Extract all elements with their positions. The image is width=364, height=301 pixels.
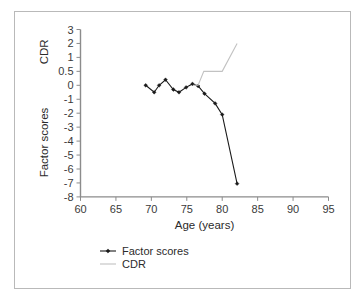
y-tick-label: -1 — [64, 93, 74, 105]
x-tick-label: 75 — [181, 203, 193, 215]
y-tick-label: -7 — [64, 177, 74, 189]
data-point-marker — [235, 182, 239, 186]
figure-root: 3210.50-1-2-3-4-5-6-7-86065707580859095A… — [0, 0, 364, 301]
y-tick-label: -6 — [64, 163, 74, 175]
y-tick-label: -4 — [64, 135, 74, 147]
line-chart: 3210.50-1-2-3-4-5-6-7-86065707580859095A… — [0, 0, 364, 301]
x-tick-label: 80 — [216, 203, 228, 215]
x-tick-label: 95 — [322, 203, 334, 215]
y-tick-label: 0.5 — [58, 65, 73, 77]
series-factor-scores — [144, 78, 239, 186]
y-axis-ticks: 3210.50-1-2-3-4-5-6-7-8 — [58, 24, 80, 203]
x-tick-label: 70 — [145, 203, 157, 215]
legend-swatch-marker — [106, 249, 110, 253]
y-tick-label: -8 — [64, 191, 74, 203]
x-axis-ticks: 6065707580859095 — [74, 197, 334, 215]
y-tick-label: 0 — [67, 79, 73, 91]
y-tick-label: -2 — [64, 107, 74, 119]
series-cdr — [193, 43, 237, 85]
y-tick-label: 1 — [67, 51, 73, 63]
series-line — [193, 43, 237, 85]
x-tick-label: 65 — [110, 203, 122, 215]
legend: Factor scoresCDR — [100, 245, 189, 270]
x-tick-label: 60 — [74, 203, 86, 215]
y-axis-title-factor-scores: Factor scores — [38, 107, 50, 177]
axes-group — [81, 30, 329, 197]
y-axis-title-cdr: CDR — [38, 39, 50, 64]
y-tick-label: 3 — [67, 24, 73, 36]
x-axis-title: Age (years) — [175, 219, 235, 231]
legend-label: CDR — [122, 258, 146, 270]
legend-label: Factor scores — [122, 245, 189, 257]
y-tick-label: -5 — [64, 149, 74, 161]
series-line — [146, 80, 237, 184]
axis-lines — [81, 30, 329, 197]
y-tick-label: 2 — [67, 37, 73, 49]
x-tick-label: 85 — [252, 203, 264, 215]
x-tick-label: 90 — [287, 203, 299, 215]
y-tick-label: -3 — [64, 121, 74, 133]
